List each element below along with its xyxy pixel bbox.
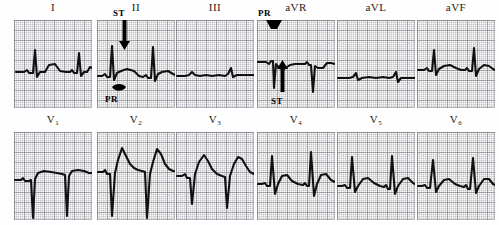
lead-label-V3: V3 — [176, 113, 254, 125]
ecg-panel-I[interactable] — [14, 20, 92, 108]
lead-label-text: V — [370, 113, 378, 125]
ecg-panel-V3[interactable] — [176, 132, 254, 220]
ecg-waveform-V2 — [97, 132, 175, 220]
ecg-waveform-V3 — [176, 132, 254, 220]
ecg-panel-II[interactable] — [97, 20, 175, 108]
lead-label-I: I — [14, 1, 92, 13]
ecg-panel-III[interactable] — [176, 20, 254, 108]
ecg-row-limb-leads: IIIIIIaVRaVLaVFSTPRPRST — [0, 0, 499, 112]
lead-label-V4: V4 — [257, 113, 335, 125]
lead-label-subscript: 6 — [458, 119, 462, 127]
ecg-sheet: IIIIIIaVRaVLaVFSTPRPRST V1V2V3V4V5V6 — [0, 0, 499, 225]
ecg-panel-V6[interactable] — [417, 132, 495, 220]
ecg-waveform-V5 — [337, 132, 415, 220]
lead-label-V1: V1 — [14, 113, 92, 125]
ecg-waveform-aVL — [337, 20, 415, 108]
ecg-waveform-V4 — [257, 132, 335, 220]
lead-label-text: aVR — [285, 1, 307, 13]
lead-label-V5: V5 — [337, 113, 415, 125]
ecg-waveform-aVF — [417, 20, 495, 108]
lead-label-subscript: 3 — [217, 119, 221, 127]
ecg-waveform-aVR — [257, 20, 335, 108]
ecg-waveform-V6 — [417, 132, 495, 220]
lead-label-aVF: aVF — [417, 1, 495, 13]
ecg-waveform-V1 — [14, 132, 92, 220]
ecg-panel-V5[interactable] — [337, 132, 415, 220]
lead-label-text: I — [51, 1, 55, 13]
lead-label-text: aVF — [446, 1, 466, 13]
ecg-row-precordial-leads: V1V2V3V4V5V6 — [0, 112, 499, 224]
ecg-waveform-I — [14, 20, 92, 108]
lead-label-aVL: aVL — [337, 1, 415, 13]
ecg-panel-V1[interactable] — [14, 132, 92, 220]
ecg-waveform-III — [176, 20, 254, 108]
ecg-panel-aVL[interactable] — [337, 20, 415, 108]
lead-label-subscript: 5 — [378, 119, 382, 127]
lead-label-text: V — [450, 113, 458, 125]
lead-label-text: V — [290, 113, 298, 125]
lead-label-III: III — [176, 1, 254, 13]
lead-label-V6: V6 — [417, 113, 495, 125]
lead-label-text: II — [132, 1, 140, 13]
lead-label-subscript: 4 — [298, 119, 302, 127]
ecg-waveform-II — [97, 20, 175, 108]
ecg-panel-V4[interactable] — [257, 132, 335, 220]
ecg-panel-aVR[interactable] — [257, 20, 335, 108]
lead-label-aVR: aVR — [257, 1, 335, 13]
lead-label-V2: V2 — [97, 113, 175, 125]
lead-label-text: aVL — [365, 1, 386, 13]
lead-label-text: V — [47, 113, 55, 125]
lead-label-text: V — [209, 113, 217, 125]
lead-label-text: V — [130, 113, 138, 125]
lead-label-subscript: 1 — [55, 119, 59, 127]
lead-label-text: III — [209, 1, 222, 13]
lead-label-subscript: 2 — [138, 119, 142, 127]
ecg-panel-V2[interactable] — [97, 132, 175, 220]
lead-label-II: II — [97, 1, 175, 13]
ecg-panel-aVF[interactable] — [417, 20, 495, 108]
